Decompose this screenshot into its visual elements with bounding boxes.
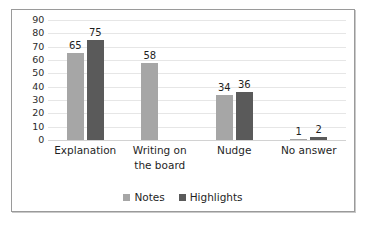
y-tick-label: 50 bbox=[32, 69, 44, 79]
axis-baseline bbox=[48, 140, 346, 141]
x-category-label: No answer bbox=[272, 143, 347, 173]
y-tick-label: 0 bbox=[38, 135, 44, 145]
bar-group: 1 2 bbox=[272, 20, 347, 140]
bar-slot: 65 bbox=[67, 20, 84, 140]
y-tick-label: 30 bbox=[32, 95, 44, 105]
bar-value-label: 1 bbox=[296, 127, 302, 137]
bar-group: 34 36 bbox=[197, 20, 272, 140]
bar-value-label: 65 bbox=[69, 41, 82, 51]
bar-slot: 2 bbox=[310, 20, 327, 140]
x-category-label: Writing on the board bbox=[123, 143, 198, 173]
bar-value-label: 34 bbox=[218, 83, 231, 93]
x-category-line: Writing on bbox=[124, 143, 197, 158]
bar-value-label: 58 bbox=[143, 51, 156, 61]
bar-slot: 58 bbox=[141, 20, 158, 140]
chart-container: 90 80 70 60 50 40 30 20 10 0 bbox=[11, 9, 355, 212]
bar-highlights[interactable] bbox=[87, 40, 104, 140]
y-axis: 90 80 70 60 50 40 30 20 10 0 bbox=[20, 20, 44, 140]
chart-legend: Notes Highlights bbox=[12, 192, 354, 203]
bar-value-label: 36 bbox=[238, 80, 251, 90]
bar-group: 65 75 bbox=[48, 20, 123, 140]
bar-slot: 34 bbox=[216, 20, 233, 140]
y-tick-label: 10 bbox=[32, 122, 44, 132]
x-category-line: No answer bbox=[273, 143, 346, 158]
x-category-line: the board bbox=[124, 158, 197, 173]
x-axis: Explanation Writing on the board Nudge N… bbox=[48, 143, 346, 173]
y-tick-label: 60 bbox=[32, 55, 44, 65]
bar-highlights[interactable] bbox=[236, 92, 253, 140]
x-category-line: Explanation bbox=[49, 143, 122, 158]
legend-item-notes[interactable]: Notes bbox=[123, 192, 164, 203]
x-category-line: Nudge bbox=[198, 143, 271, 158]
bar-slot: 36 bbox=[236, 20, 253, 140]
bar-notes[interactable] bbox=[290, 139, 307, 140]
y-tick-label: 20 bbox=[32, 109, 44, 119]
bar-notes[interactable] bbox=[67, 53, 84, 140]
y-tick-label: 90 bbox=[32, 15, 44, 25]
legend-item-highlights[interactable]: Highlights bbox=[179, 192, 243, 203]
x-category-label: Nudge bbox=[197, 143, 272, 173]
bar-slot: 1 bbox=[290, 20, 307, 140]
legend-swatch-icon bbox=[123, 194, 130, 201]
legend-swatch-icon bbox=[179, 194, 186, 201]
bar-value-label: 75 bbox=[89, 28, 102, 38]
bar-highlights[interactable] bbox=[310, 137, 327, 140]
bar-slot bbox=[161, 20, 178, 140]
y-tick-label: 40 bbox=[32, 82, 44, 92]
y-tick-label: 70 bbox=[32, 42, 44, 52]
plot-area: 65 75 58 bbox=[48, 20, 346, 140]
x-category-label: Explanation bbox=[48, 143, 123, 173]
bar-group: 58 bbox=[123, 20, 198, 140]
bar-groups: 65 75 58 bbox=[48, 20, 346, 140]
chart-plot-wrapper: 90 80 70 60 50 40 30 20 10 0 bbox=[12, 10, 354, 211]
legend-label: Highlights bbox=[190, 192, 243, 203]
bar-value-label: 2 bbox=[316, 125, 322, 135]
legend-label: Notes bbox=[134, 192, 164, 203]
y-tick-label: 80 bbox=[32, 29, 44, 39]
bar-notes[interactable] bbox=[216, 95, 233, 140]
bar-notes[interactable] bbox=[141, 63, 158, 140]
bar-slot: 75 bbox=[87, 20, 104, 140]
